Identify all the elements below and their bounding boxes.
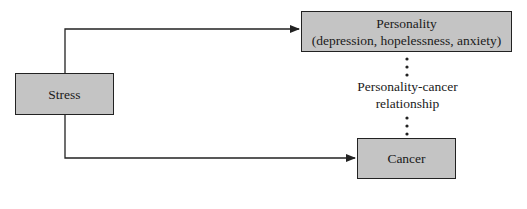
- relationship-label-line2: relationship: [330, 95, 485, 112]
- cancer-node: Cancer: [357, 138, 456, 179]
- personality-node: Personality (depression, hopelessness, a…: [301, 11, 512, 52]
- cancer-label: Cancer: [387, 150, 425, 167]
- personality-title: Personality: [376, 15, 437, 32]
- relationship-label: Personality-cancer relationship: [330, 78, 485, 112]
- edge-stress-to-cancer: [65, 115, 355, 158]
- dotted-connector-bottom: [405, 116, 408, 135]
- personality-subtitle: (depression, hopelessness, anxiety): [312, 32, 502, 49]
- relationship-label-line1: Personality-cancer: [330, 78, 485, 95]
- stress-node: Stress: [15, 73, 114, 115]
- dotted-connector-top: [405, 57, 408, 76]
- edge-stress-to-personality: [65, 29, 299, 73]
- stress-label: Stress: [48, 86, 80, 103]
